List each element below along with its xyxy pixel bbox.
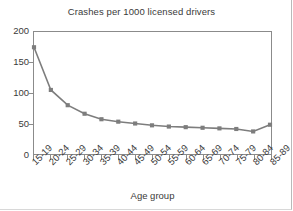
series-line: [34, 47, 270, 131]
data-point-marker: [116, 120, 120, 124]
data-point-marker: [251, 129, 255, 133]
x-axis-tick-labels: 15-1920-2425-2930-3435-3940-4445-4950-54…: [33, 160, 272, 190]
plot-area: [33, 31, 272, 155]
data-point-marker: [99, 117, 103, 121]
data-point-marker: [32, 45, 36, 49]
x-axis-title: Age group: [33, 190, 272, 201]
data-point-marker: [133, 121, 137, 125]
data-point-marker: [217, 126, 221, 130]
data-point-marker: [268, 123, 272, 127]
data-point-marker: [66, 103, 70, 107]
data-point-marker: [184, 125, 188, 129]
data-point-marker: [49, 88, 53, 92]
data-point-marker: [167, 124, 171, 128]
data-point-marker: [82, 112, 86, 116]
data-point-marker: [200, 126, 204, 130]
series-line-crashes-per-1000: [34, 32, 271, 154]
y-axis-tick-marks: [0, 31, 33, 155]
data-point-marker: [234, 127, 238, 131]
chart-figure: Crashes per 1000 licensed drivers 050100…: [0, 0, 293, 211]
data-point-marker: [150, 123, 154, 127]
chart-title: Crashes per 1000 licensed drivers: [0, 6, 283, 17]
